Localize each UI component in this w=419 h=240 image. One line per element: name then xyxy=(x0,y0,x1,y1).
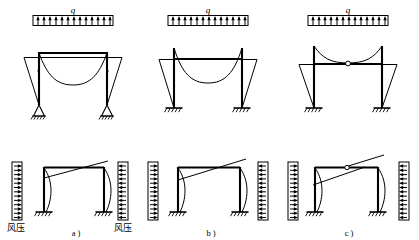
structural-figure: q xyxy=(0,0,419,240)
panel-a-bottom-diagram xyxy=(44,161,111,212)
panel-b-bottom-support-right xyxy=(231,212,249,216)
panel-c-support-left xyxy=(305,108,323,112)
panel-b-load-arrows xyxy=(171,16,246,26)
panel-a-wind-label-left: 风压 xyxy=(7,223,25,233)
panel-c-wind-arrows-right xyxy=(399,164,407,219)
panel-c-wind-strip-right xyxy=(399,162,409,220)
panel-b-frame xyxy=(159,48,257,108)
panel-b-wind-arrows-left xyxy=(150,164,158,219)
panel-a-wind-strip-left xyxy=(12,162,22,220)
panel-a-bottom-support-left xyxy=(35,212,53,216)
panel-b-wind-arrows-right xyxy=(258,164,266,219)
panel-b-load-strip: q xyxy=(168,5,248,26)
panel-a-wind-arrows-left xyxy=(14,164,22,219)
panel-b-load-label: q xyxy=(206,5,211,15)
panel-b-wind-strip-left xyxy=(148,162,158,220)
panel-b-bottom: b ) xyxy=(148,159,268,238)
panel-c-wind-strip-left xyxy=(288,162,298,220)
panel-b-caption: b ) xyxy=(206,228,215,238)
panel-c-midspan-hinge-icon xyxy=(346,61,351,66)
panel-c-frame xyxy=(299,46,397,108)
panel-c-bottom-diagram xyxy=(313,155,385,212)
panel-a-top: q xyxy=(24,5,122,120)
panel-b-support-right xyxy=(233,108,251,112)
figure-canvas: q xyxy=(0,0,419,240)
panel-c-caption: c ) xyxy=(345,228,354,238)
panel-a-bottom-frame xyxy=(44,167,104,212)
panel-b-support-left xyxy=(165,108,183,112)
panel-c-load-label: q xyxy=(346,5,351,15)
panel-a-support-left xyxy=(31,105,46,120)
panel-a-wind-strip-right xyxy=(118,162,128,220)
panel-b-bottom-support-left xyxy=(169,212,187,216)
panel-c-bottom-support-left xyxy=(306,212,324,216)
panel-a-wind-label-right: 风压 xyxy=(114,223,132,233)
panel-a-load-arrows xyxy=(36,16,111,26)
panel-b-bottom-frame xyxy=(178,167,240,212)
panel-a-frame xyxy=(24,52,122,105)
panel-c-bottom-midspan-hinge-icon xyxy=(345,165,349,169)
panel-a-bottom: 风压 xyxy=(7,161,132,238)
panel-b-top: q xyxy=(159,5,257,112)
panel-c-bottom: c ) xyxy=(288,155,409,238)
panel-a-support-right xyxy=(99,105,114,120)
panel-a-wind-arrows-right xyxy=(118,164,126,219)
panel-a-bottom-support-right xyxy=(95,212,113,216)
panel-a-load-label: q xyxy=(71,5,76,15)
panel-c-load-arrows xyxy=(311,16,386,26)
panel-c-support-right xyxy=(373,108,391,112)
panel-b-wind-strip-right xyxy=(258,162,268,220)
panel-c-bottom-support-right xyxy=(369,212,387,216)
panel-a-caption: a ) xyxy=(72,228,81,238)
panel-c-top: q xyxy=(299,5,397,112)
panel-c-wind-arrows-left xyxy=(290,164,298,219)
panel-a-load-strip: q xyxy=(33,5,113,26)
panel-c-load-strip: q xyxy=(308,5,388,26)
